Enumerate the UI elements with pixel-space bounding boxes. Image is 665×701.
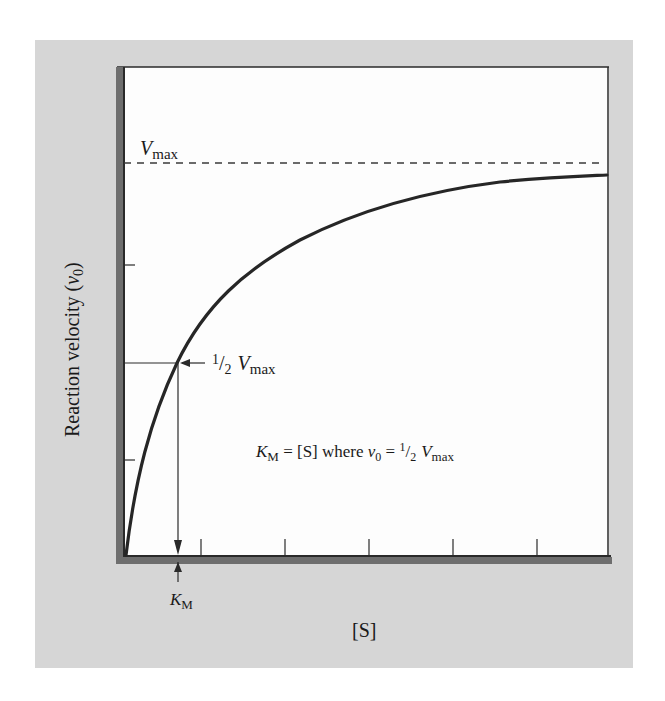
michaelis-menten-chart: Vmax 1/2Vmax KM = [S] where v0 = 1/2Vmax… <box>0 0 665 701</box>
x-axis-shadow <box>116 557 612 564</box>
plot-area <box>117 67 609 558</box>
x-axis-label: [S] <box>352 619 376 641</box>
km-label: KM <box>169 590 193 612</box>
km-definition-equation: KM = [S] where v0 = 1/2Vmax <box>255 440 454 464</box>
y-axis-label: Reaction velocity (v0) <box>61 262 86 437</box>
y-axis-shadow <box>116 67 123 564</box>
